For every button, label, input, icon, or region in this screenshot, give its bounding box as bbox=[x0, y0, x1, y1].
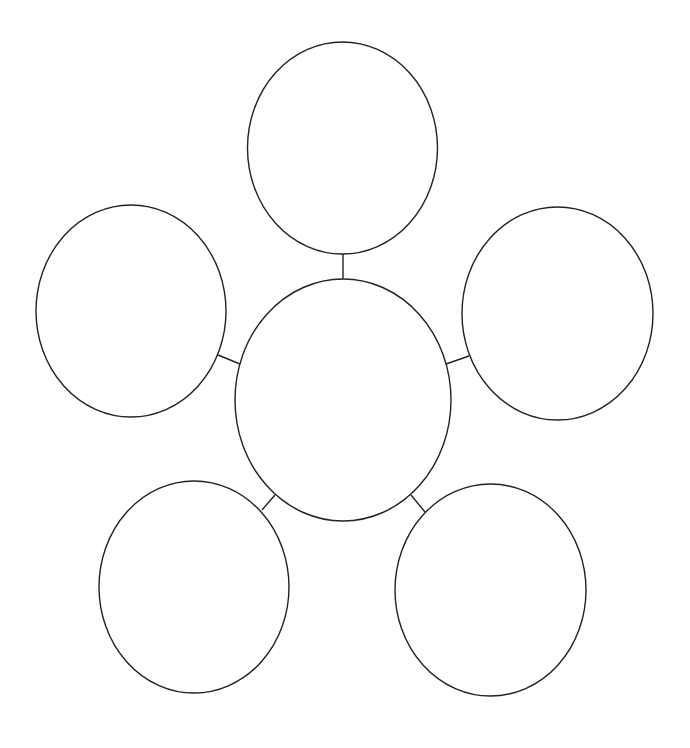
bubble-bottom-left-shape[interactable] bbox=[99, 481, 289, 693]
connector-line-right bbox=[446, 356, 469, 364]
bubble-top[interactable] bbox=[248, 42, 438, 254]
bubble-group bbox=[36, 42, 653, 696]
connector-line-bottom-left bbox=[262, 495, 275, 510]
bubble-bottom-right[interactable] bbox=[395, 484, 586, 696]
bubble-bottom-right-shape[interactable] bbox=[395, 484, 586, 696]
bubble-right[interactable] bbox=[462, 207, 653, 420]
bubble-right-shape[interactable] bbox=[462, 207, 653, 420]
connector-line-bottom-right bbox=[411, 495, 425, 512]
center-bubble-shape[interactable] bbox=[235, 279, 451, 521]
bubble-bottom-left[interactable] bbox=[99, 481, 289, 693]
bubble-map-diagram bbox=[0, 0, 690, 748]
bubble-top-shape[interactable] bbox=[248, 42, 438, 254]
bubble-map-canvas bbox=[0, 0, 690, 748]
bubble-left-shape[interactable] bbox=[36, 205, 226, 417]
connector-line-left bbox=[218, 355, 240, 364]
center-bubble[interactable] bbox=[235, 279, 451, 521]
bubble-left[interactable] bbox=[36, 205, 226, 417]
